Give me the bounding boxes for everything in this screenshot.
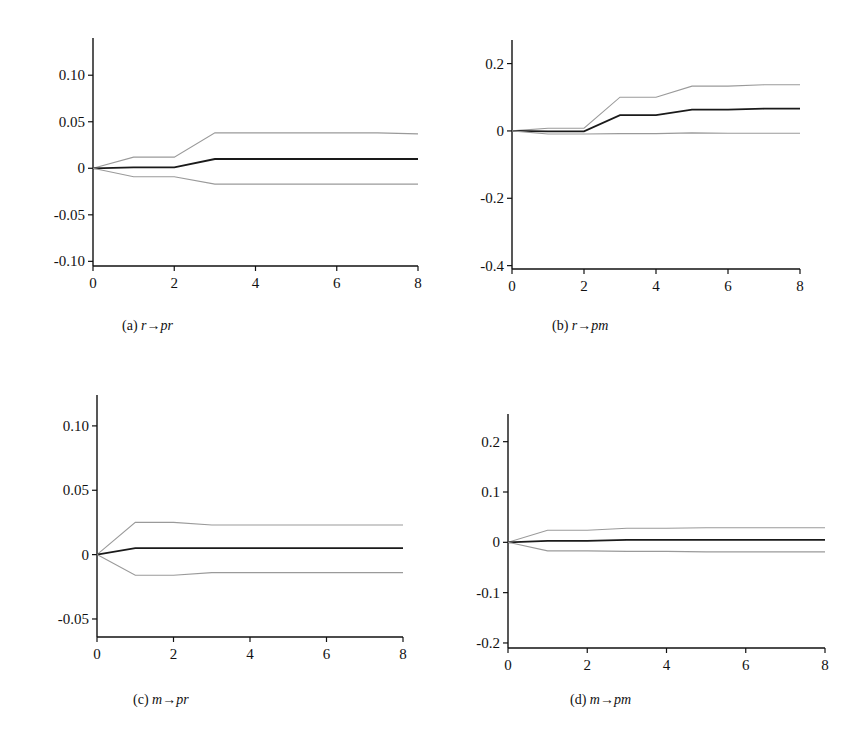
caption-arrow: → xyxy=(147,318,161,333)
x-tick-label: 6 xyxy=(323,646,331,662)
response-line xyxy=(97,548,403,554)
y-tick-label: 0.05 xyxy=(63,482,89,498)
x-tick-label: 4 xyxy=(246,646,254,662)
panel-caption: (d) m→pm xyxy=(570,692,631,708)
y-tick-label: -0.4 xyxy=(480,258,504,274)
response-line xyxy=(508,540,825,543)
y-tick-label: -0.10 xyxy=(54,253,85,269)
upper-band-line xyxy=(512,85,800,131)
x-tick-label: 8 xyxy=(414,275,422,291)
y-tick-label: 0.2 xyxy=(481,434,500,450)
x-tick-label: 2 xyxy=(584,657,592,673)
x-tick-label: 2 xyxy=(580,278,588,294)
x-tick-label: 0 xyxy=(504,657,512,673)
x-tick-label: 8 xyxy=(796,278,804,294)
x-tick-label: 8 xyxy=(399,646,407,662)
y-tick-label: 0.1 xyxy=(481,484,500,500)
y-tick-label: 0 xyxy=(82,547,90,563)
caption-label: (d) xyxy=(570,692,590,708)
caption-to-variable: pm xyxy=(613,692,631,707)
caption-arrow: → xyxy=(577,318,591,333)
x-tick-label: 6 xyxy=(742,657,750,673)
caption-from-variable: m xyxy=(590,692,600,707)
panel-c: 0.100.050-0.0502468(c) m→pr xyxy=(58,395,407,708)
panel-b: 0.20-0.2-0.402468(b) r→pm xyxy=(480,40,804,334)
caption-from-variable: m xyxy=(152,692,162,707)
lower-band-line xyxy=(97,555,403,576)
caption-label: (b) xyxy=(552,318,572,334)
x-tick-label: 4 xyxy=(252,275,260,291)
y-tick-label: 0.10 xyxy=(63,418,89,434)
caption-arrow: → xyxy=(162,692,176,707)
y-tick-label: -0.2 xyxy=(480,190,504,206)
y-tick-label: 0 xyxy=(78,160,86,176)
panel-caption: (a) r→pr xyxy=(122,318,174,334)
caption-to-variable: pr xyxy=(160,318,174,333)
x-tick-label: 0 xyxy=(89,275,97,291)
panel-caption: (c) m→pr xyxy=(133,692,189,708)
x-tick-label: 4 xyxy=(652,278,660,294)
y-tick-label: -0.2 xyxy=(476,635,500,651)
response-line xyxy=(93,159,418,168)
caption-label: (c) xyxy=(133,692,152,708)
x-tick-label: 6 xyxy=(333,275,341,291)
caption-to-variable: pm xyxy=(590,318,608,333)
lower-band-line xyxy=(93,168,418,184)
panel-a: 0.100.050-0.05-0.1002468(a) r→pr xyxy=(54,38,422,334)
lower-band-line xyxy=(508,542,825,552)
x-tick-label: 4 xyxy=(663,657,671,673)
caption-label: (a) xyxy=(122,318,141,334)
panel-caption: (b) r→pm xyxy=(552,318,608,334)
x-tick-label: 6 xyxy=(724,278,732,294)
y-tick-label: 0.2 xyxy=(485,56,504,72)
upper-band-line xyxy=(97,522,403,554)
caption-to-variable: pr xyxy=(175,692,189,707)
y-tick-label: -0.05 xyxy=(54,207,85,223)
x-tick-label: 0 xyxy=(508,278,516,294)
y-tick-label: 0.05 xyxy=(59,114,85,130)
impulse-response-figure: 0.100.050-0.05-0.1002468(a) r→pr0.20-0.2… xyxy=(0,0,862,742)
x-tick-label: 0 xyxy=(93,646,101,662)
panel-d: 0.20.10-0.1-0.202468(d) m→pm xyxy=(476,414,829,708)
upper-band-line xyxy=(93,133,418,168)
x-tick-label: 2 xyxy=(170,646,178,662)
x-tick-label: 2 xyxy=(171,275,179,291)
x-tick-label: 8 xyxy=(821,657,829,673)
y-tick-label: 0.10 xyxy=(59,67,85,83)
y-tick-label: -0.1 xyxy=(476,585,500,601)
y-tick-label: 0 xyxy=(493,534,501,550)
y-tick-label: -0.05 xyxy=(58,611,89,627)
y-tick-label: 0 xyxy=(497,123,505,139)
caption-arrow: → xyxy=(600,692,614,707)
